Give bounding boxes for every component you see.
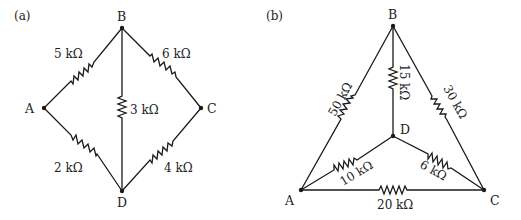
value-a-ad: 2 kΩ	[54, 161, 83, 175]
node-b-A	[299, 188, 303, 192]
circuit-figures: (a) B A C D 5 kΩ 6 kΩ 3 kΩ 2 kΩ 4 kΩ (b)	[0, 0, 521, 220]
node-label-a-A: A	[24, 101, 35, 116]
node-label-a-B: B	[117, 9, 126, 24]
node-a-D	[120, 189, 124, 193]
value-a-dc: 4 kΩ	[164, 161, 193, 175]
node-b-D	[391, 134, 395, 138]
node-a-C	[199, 106, 203, 110]
node-a-A	[42, 106, 46, 110]
value-b-ac: 20 kΩ	[377, 198, 413, 212]
value-a-ab: 5 kΩ	[54, 47, 83, 61]
value-a-bd: 3 kΩ	[130, 103, 159, 117]
resistor-a-dc	[122, 108, 201, 191]
resistor-b-bd	[389, 26, 397, 136]
node-b-B	[391, 24, 395, 28]
node-label-a-C: C	[207, 101, 217, 116]
node-label-a-D: D	[117, 195, 127, 210]
value-a-bc: 6 kΩ	[162, 47, 191, 61]
node-label-b-D: D	[400, 122, 410, 137]
node-label-b-C: C	[490, 193, 500, 208]
figure-a: (a) B A C D 5 kΩ 6 kΩ 3 kΩ 2 kΩ 4 kΩ	[14, 9, 217, 210]
figure-b: (b) B A C D 50 kΩ 15 kΩ 30 kΩ 10 kΩ 6 kΩ…	[266, 7, 500, 212]
resistor-b-ac	[301, 186, 484, 194]
value-b-ab: 50 kΩ	[325, 80, 355, 119]
node-label-b-B: B	[388, 7, 397, 22]
node-label-b-A: A	[284, 193, 295, 208]
value-b-bd: 15 kΩ	[397, 64, 411, 100]
figure-b-label: (b)	[266, 9, 283, 23]
resistor-a-ab	[44, 28, 122, 108]
resistor-a-bc	[122, 28, 201, 108]
figure-a-label: (a)	[14, 9, 31, 23]
value-b-ad: 10 kΩ	[337, 158, 375, 189]
resistor-a-bd	[118, 28, 126, 191]
node-a-B	[120, 26, 124, 30]
node-b-C	[482, 188, 486, 192]
resistor-a-ad	[44, 108, 122, 191]
